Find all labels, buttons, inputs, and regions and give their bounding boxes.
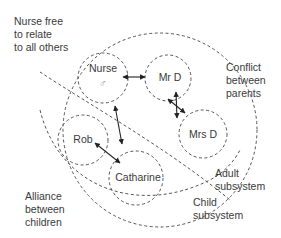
svg-text:to relate: to relate [14, 28, 52, 40]
family-subsystems-diagram: Nurse ♂ Mr D Mrs D Rob Catharine Nurse f… [0, 0, 281, 238]
node-label-catharine: Catharine [115, 171, 161, 183]
svg-text:between: between [226, 74, 266, 86]
svg-text:parents: parents [226, 87, 261, 99]
svg-text:children: children [25, 216, 62, 228]
node-label-rob: Rob [73, 133, 92, 145]
svg-text:Child: Child [193, 196, 217, 208]
svg-text:subsystem: subsystem [193, 209, 243, 221]
svg-text:Adult: Adult [215, 167, 239, 179]
annotation-nurse-free: Nurse free to relate to all others [14, 15, 68, 53]
svg-text:Alliance: Alliance [25, 190, 62, 202]
svg-text:Nurse free: Nurse free [14, 15, 63, 27]
node-label-nurse: Nurse [89, 62, 117, 74]
male-symbol-icon: ♂ [99, 77, 107, 89]
svg-text:between: between [25, 203, 65, 215]
annotation-child-subsystem: Child subsystem [193, 196, 243, 221]
svg-text:Conflict: Conflict [226, 61, 261, 73]
annotation-alliance-between-children: Alliance between children [25, 190, 65, 228]
svg-text:to all others: to all others [14, 41, 68, 53]
svg-text:subsystem: subsystem [215, 180, 265, 192]
node-label-mrs-d: Mrs D [189, 128, 217, 140]
arrow-nurse-catharine [115, 106, 122, 144]
node-label-mr-d: Mr D [159, 71, 182, 83]
annotation-adult-subsystem: Adult subsystem [215, 167, 265, 192]
annotation-conflict-between-parents: Conflict between parents [226, 61, 266, 99]
